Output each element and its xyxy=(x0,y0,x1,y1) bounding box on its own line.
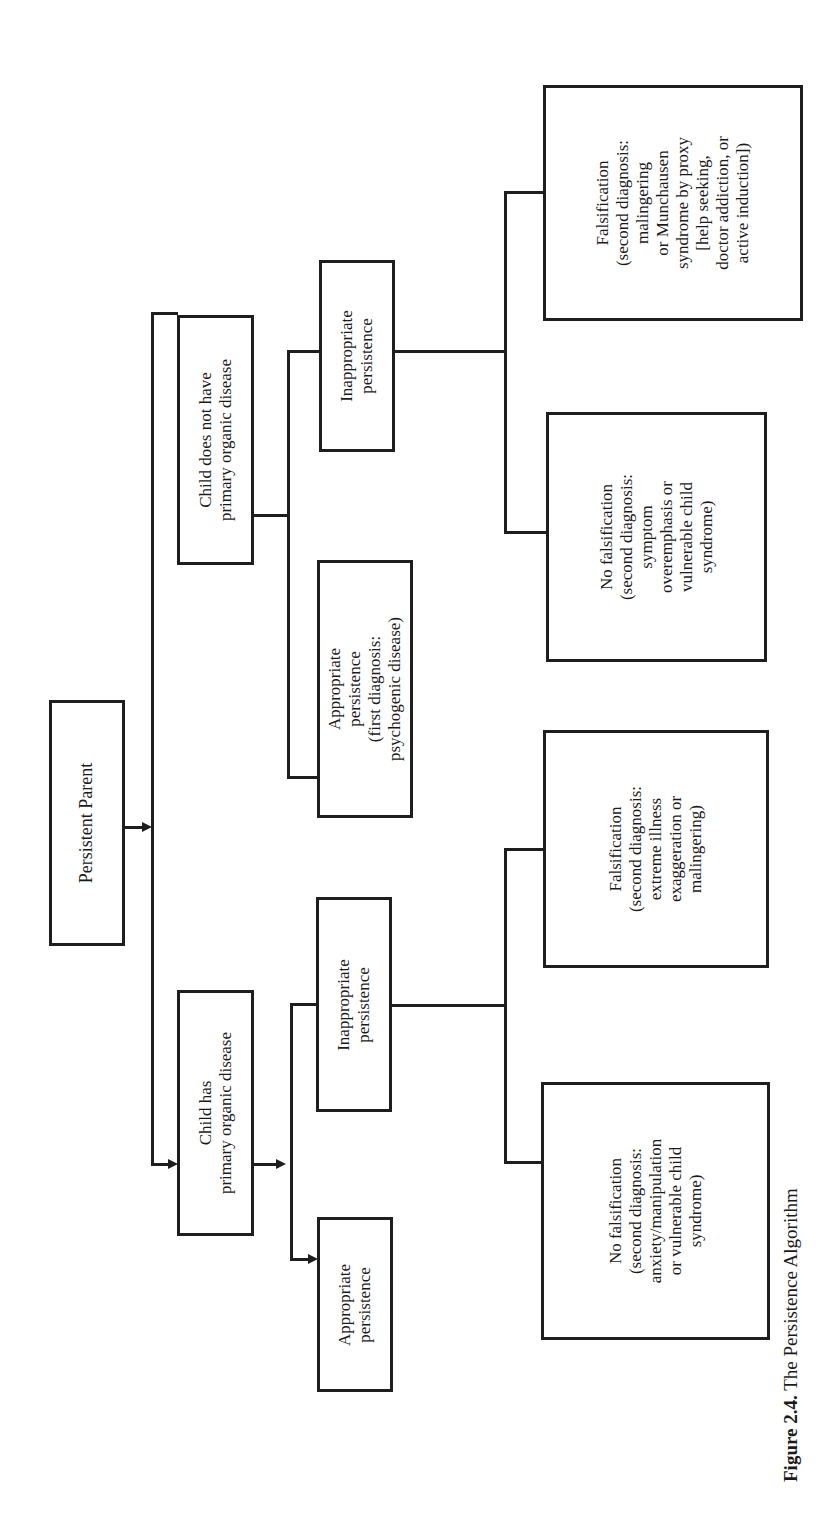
connector-inappropriate-to-leaf-spine-top xyxy=(395,350,506,353)
node-has-disease-inappropriate-persistence: Inappropriate persistence xyxy=(316,897,392,1112)
label-line: [help seeking, xyxy=(693,136,713,270)
label-line: symptom xyxy=(636,474,656,600)
figure-caption: Figure 2.4. The Persistence Algorithm xyxy=(780,1188,802,1482)
label-line: persistence xyxy=(355,1263,375,1345)
label-line: psychogenic disease) xyxy=(385,617,405,761)
label-line: primary organic disease xyxy=(216,1032,236,1194)
connector-to-no-falsification-top xyxy=(504,531,548,534)
label-line: primary organic disease xyxy=(216,359,236,521)
node-no-disease-inappropriate-persistence: Inappropriate persistence xyxy=(319,260,395,452)
spine-has-disease xyxy=(290,1003,293,1261)
node-label: Appropriate persistence (first diagnosis… xyxy=(325,617,405,761)
node-label: Persistent Parent xyxy=(76,763,97,883)
node-label: Child does not have primary organic dise… xyxy=(195,359,235,521)
node-no-falsification-overemphasis: No falsification (second diagnosis: symp… xyxy=(546,412,767,662)
node-label: Falsification (second diagnosis: extreme… xyxy=(606,786,706,912)
label-line: extreme illness xyxy=(646,786,666,912)
label-line: active induction]) xyxy=(733,136,753,270)
label-line: (second diagnosis: xyxy=(613,136,633,270)
label-line: (second diagnosis: xyxy=(616,474,636,600)
spine-leaves-top xyxy=(504,191,507,533)
connector-to-falsification-bottom xyxy=(504,848,544,851)
label-line: syndrome) xyxy=(697,474,717,600)
label-line: persistence xyxy=(354,959,374,1051)
node-no-falsification-anxiety: No falsification (second diagnosis: anxi… xyxy=(541,1082,770,1340)
connector-no-disease-to-spine xyxy=(254,514,288,517)
node-has-disease-appropriate-persistence: Appropriate persistence xyxy=(317,1217,393,1392)
label-line: malingering xyxy=(633,136,653,270)
caption-label: Figure 2.4. xyxy=(780,1395,801,1482)
label-line: (second diagnosis: xyxy=(626,786,646,912)
label-line: vulnerable child xyxy=(677,474,697,600)
spine-no-disease xyxy=(287,350,290,778)
node-falsification-exaggeration: Falsification (second diagnosis: extreme… xyxy=(543,730,769,968)
node-label: Inappropriate persistence xyxy=(334,959,374,1051)
label-line: Child has xyxy=(195,1032,215,1194)
label-line: or vulnerable child xyxy=(666,1139,686,1283)
connector-to-no-falsification-bottom xyxy=(504,1161,544,1164)
connector-to-has-disease-appropriate xyxy=(290,1258,310,1261)
label-line: (second diagnosis: xyxy=(625,1139,645,1283)
label-line: (first diagnosis: xyxy=(365,617,385,761)
label-line: overemphasis or xyxy=(657,474,677,600)
label-line: anxiety/manipulation xyxy=(645,1139,665,1283)
label-line: Inappropriate xyxy=(337,310,357,402)
node-label: No falsification (second diagnosis: symp… xyxy=(596,474,716,600)
label-line: persistence xyxy=(357,310,377,402)
label-line: doctor addiction, or xyxy=(713,136,733,270)
connector-has-disease-to-spine xyxy=(254,1163,278,1166)
node-no-organic-disease: Child does not have primary organic dise… xyxy=(177,315,254,565)
label-line: Appropriate xyxy=(335,1263,355,1345)
label-line: Appropriate xyxy=(325,617,345,761)
label-line: or Munchausen xyxy=(653,136,673,270)
label-line: Child does not have xyxy=(195,359,215,521)
node-falsification-munchausen: Falsification (second diagnosis: malinge… xyxy=(543,85,803,321)
label-line: persistence xyxy=(345,617,365,761)
caption-title: The Persistence Algorithm xyxy=(780,1188,801,1395)
label-line: No falsification xyxy=(605,1139,625,1283)
node-label: Inappropriate persistence xyxy=(337,310,377,402)
arrow-head-icon xyxy=(276,1159,286,1169)
label-line: Falsification xyxy=(593,136,613,270)
label-line: No falsification xyxy=(596,474,616,600)
connector-inappropriate-to-leaf-spine-bottom xyxy=(392,1004,505,1007)
label-line: syndrome) xyxy=(686,1139,706,1283)
label-line: Inappropriate xyxy=(334,959,354,1051)
connector-to-falsification-top xyxy=(504,191,544,194)
connector-to-has-disease-inappropriate xyxy=(290,1003,318,1006)
node-label: No falsification (second diagnosis: anxi… xyxy=(605,1139,705,1283)
spine-leaves-bottom xyxy=(504,848,507,1163)
node-label: Appropriate persistence xyxy=(335,1263,375,1345)
label-line: exaggeration or xyxy=(666,786,686,912)
node-label: Child has primary organic disease xyxy=(195,1032,235,1194)
connector-to-no-disease-appropriate xyxy=(287,776,319,779)
label-line: malingering) xyxy=(686,786,706,912)
node-label: Falsification (second diagnosis: malinge… xyxy=(593,136,753,270)
node-has-organic-disease: Child has primary organic disease xyxy=(177,990,254,1236)
spine-level1 xyxy=(151,312,154,1166)
node-persistent-parent: Persistent Parent xyxy=(49,700,125,946)
label-line: Persistent Parent xyxy=(76,763,97,883)
label-line: Falsification xyxy=(606,786,626,912)
connector-to-no-disease-inappropriate xyxy=(287,350,319,353)
node-no-disease-appropriate-persistence: Appropriate persistence (first diagnosis… xyxy=(317,560,413,818)
label-line: syndrome by proxy xyxy=(673,136,693,270)
connector-spine-to-no-disease xyxy=(151,312,178,315)
